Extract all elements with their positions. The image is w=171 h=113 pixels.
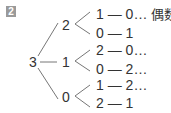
row-a: 1 (96, 6, 104, 22)
row-dots: … (133, 61, 147, 77)
tree-row-5: 2 — 1 (96, 96, 133, 110)
row-a: 1 (96, 77, 104, 93)
row-dash: — (108, 77, 122, 93)
row-dots: … (133, 42, 147, 58)
row-dots: … (133, 77, 147, 93)
tree-node-l1-1: 1 (62, 55, 70, 69)
row-note: 偶数 (151, 7, 171, 22)
tree-row-2: 2 — 0… (96, 43, 147, 57)
tree-node-l1-2: 0 (62, 90, 70, 104)
row-a: 0 (96, 25, 104, 41)
row-dash: — (108, 25, 122, 41)
row-dash: — (108, 42, 122, 58)
row-b: 1 (126, 95, 134, 111)
row-dash: — (108, 6, 122, 22)
tree-row-3: 0 — 2… (96, 62, 147, 76)
row-dots: … (133, 6, 147, 22)
row-dash: — (108, 61, 122, 77)
row-b: 1 (126, 25, 134, 41)
tree-node-l1-0: 2 (62, 18, 70, 32)
row-a: 0 (96, 61, 104, 77)
row-a: 2 (96, 42, 104, 58)
row-a: 2 (96, 95, 104, 111)
tree-row-1: 0 — 1 (96, 26, 133, 40)
row-dash: — (108, 95, 122, 111)
tree-row-4: 1 — 2… (96, 78, 147, 92)
tree-root: 3 (29, 55, 37, 69)
tree-row-0: 1 — 0… 偶数 (96, 7, 171, 22)
